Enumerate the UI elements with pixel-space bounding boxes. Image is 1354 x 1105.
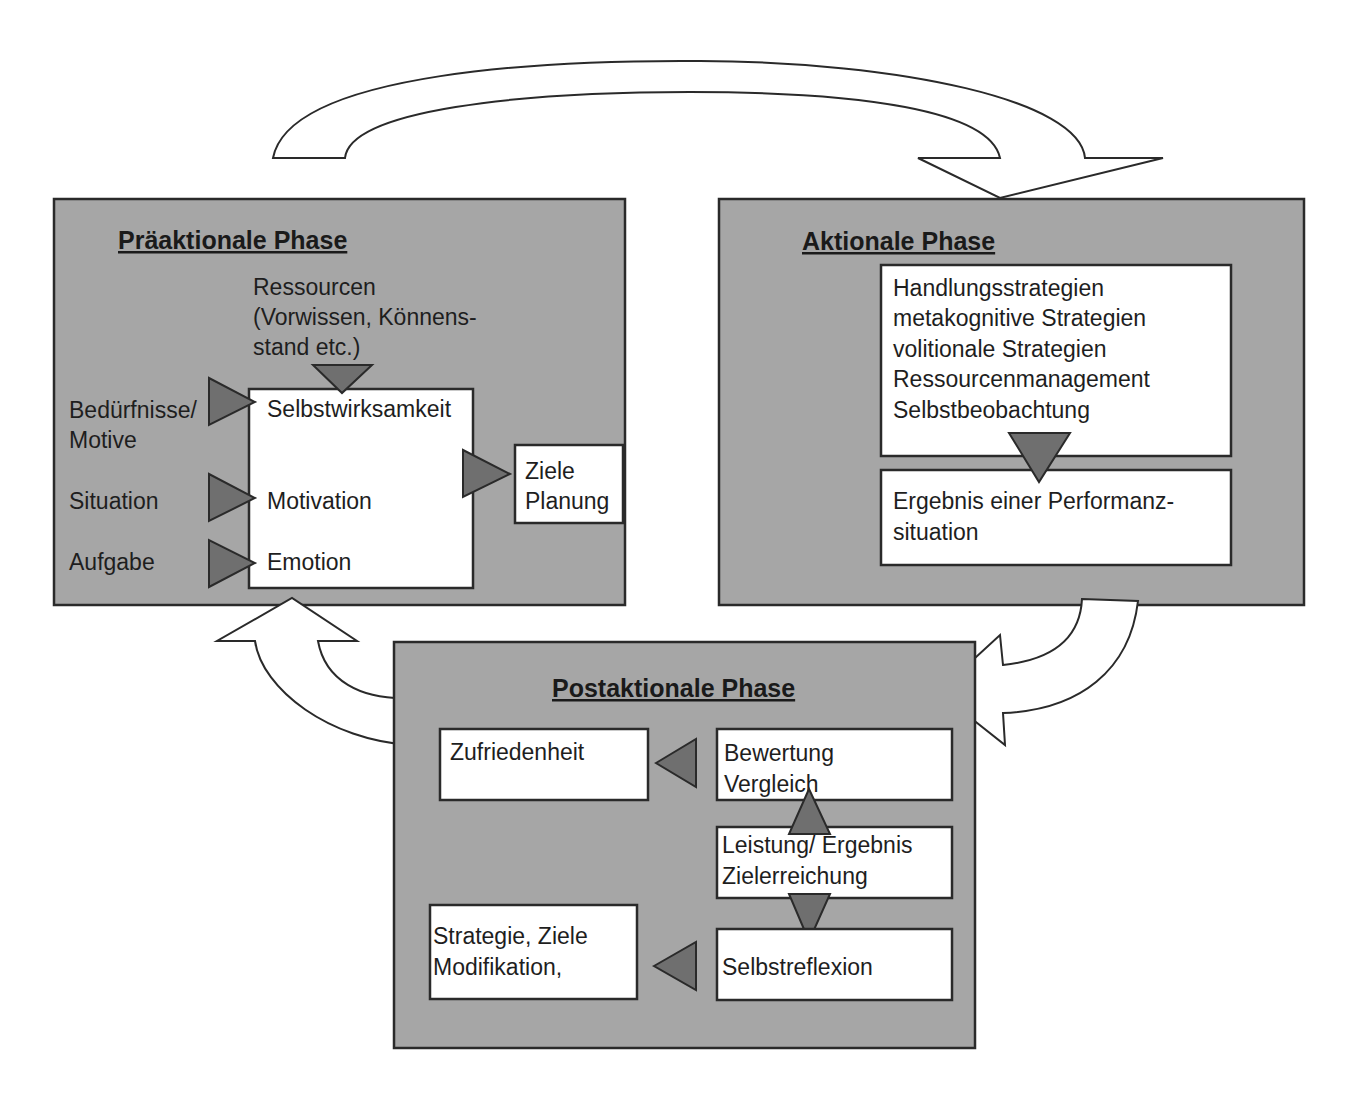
strategy-item: volitionale Strategien [893,336,1107,362]
modification-box [430,905,637,999]
modification-label: Modifikation, [433,954,562,980]
phase-model-diagram: Präaktionale Phase Ressourcen (Vorwissen… [0,0,1354,1105]
performance-result-box [881,470,1231,565]
performance-result-label-1: Ergebnis einer Performanz- [893,488,1174,514]
motivation-label: Motivation [267,488,372,514]
planning-label: Planung [525,488,609,514]
strategy-item: Handlungsstrategien [893,275,1104,301]
cycle-arrow-post-to-pre [217,598,410,745]
self-reflection-label: Selbstreflexion [722,954,873,980]
satisfaction-label: Zufriedenheit [450,739,585,765]
cycle-arrow-pre-to-act [273,61,1163,198]
evaluation-label: Bewertung [724,740,834,766]
strategy-item: metakognitive Strategien [893,305,1146,331]
strategy-item: Selbstbeobachtung [893,397,1090,423]
needs-label: Bedürfnisse/ [69,397,197,423]
actional-title: Aktionale Phase [802,227,995,255]
resources-label-3: stand etc.) [253,334,360,360]
emotion-label: Emotion [267,549,351,575]
resources-label-2: (Vorwissen, Könnens- [253,304,477,330]
goals-label: Ziele [525,458,575,484]
situation-label: Situation [69,488,159,514]
task-label: Aufgabe [69,549,155,575]
resources-label-1: Ressourcen [253,274,376,300]
pre-actional-title: Präaktionale Phase [118,226,347,254]
strategy-goals-label: Strategie, Ziele [433,923,588,949]
strategy-item: Ressourcenmanagement [893,366,1151,392]
motives-label: Motive [69,427,137,453]
self-efficacy-label: Selbstwirksamkeit [267,396,452,422]
comparison-label: Vergleich [724,771,819,797]
performance-label: Leistung/ Ergebnis [722,832,913,858]
goal-attainment-label: Zielerreichung [722,863,868,889]
post-actional-title: Postaktionale Phase [552,674,795,702]
performance-result-label-2: situation [893,519,979,545]
